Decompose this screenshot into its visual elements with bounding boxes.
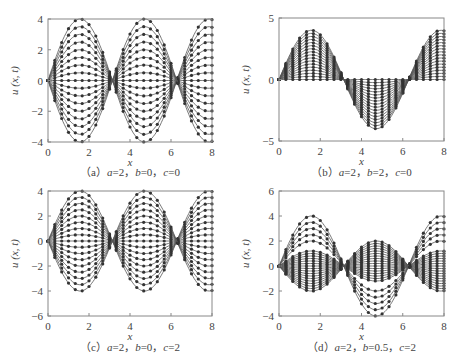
marker <box>436 228 439 231</box>
marker <box>360 246 363 249</box>
marker <box>305 289 308 292</box>
marker <box>353 277 356 280</box>
y-tick-label: −4 <box>262 310 274 322</box>
marker <box>381 300 384 303</box>
marker <box>312 233 315 236</box>
marker <box>291 237 294 240</box>
param-c-value: =2 <box>404 341 416 353</box>
marker <box>353 252 356 255</box>
x-tick-label: 8 <box>441 320 447 332</box>
x-tick-label: 6 <box>400 320 406 332</box>
marker <box>429 226 432 229</box>
marker <box>422 244 425 247</box>
marker <box>394 283 397 286</box>
marker <box>381 288 384 291</box>
marker <box>394 279 397 282</box>
marker <box>312 215 315 218</box>
marker <box>429 221 432 224</box>
marker <box>408 266 411 269</box>
marker <box>298 243 301 246</box>
marker <box>367 293 370 296</box>
y-axis-label: u (x, t) <box>239 239 252 268</box>
marker <box>422 248 425 251</box>
panel-d: 02468−4−20246xu (x, t) （d）a=2，b=0.5，c=2 <box>0 0 456 363</box>
marker <box>429 286 432 289</box>
caption-d: （d）a=2，b=0.5，c=2 <box>279 338 444 354</box>
marker <box>422 236 425 239</box>
marker <box>429 237 432 240</box>
plot-d: 02468−4−20246xu (x, t) <box>0 0 456 363</box>
marker <box>353 280 356 283</box>
marker <box>387 290 390 293</box>
marker <box>284 273 287 276</box>
marker <box>360 288 363 291</box>
marker <box>422 240 425 243</box>
marker <box>374 302 377 305</box>
marker <box>319 230 322 233</box>
y-tick-label: −2 <box>262 285 274 297</box>
marker <box>298 285 301 288</box>
marker <box>305 234 308 237</box>
marker <box>436 221 439 224</box>
marker <box>326 242 329 245</box>
marker <box>367 305 370 308</box>
series-group <box>277 215 445 318</box>
marker <box>436 240 439 243</box>
marker <box>367 299 370 302</box>
marker <box>374 296 377 299</box>
x-tick-label: 2 <box>318 320 324 332</box>
marker <box>305 228 308 231</box>
marker <box>422 232 425 235</box>
marker <box>291 234 294 237</box>
marker <box>436 215 439 218</box>
marker <box>394 286 397 289</box>
marker <box>339 268 342 271</box>
marker <box>298 233 301 236</box>
marker <box>387 244 390 247</box>
marker <box>387 300 390 303</box>
x-tick-label: 0 <box>276 320 282 332</box>
marker <box>346 260 349 263</box>
param-b-value: =0.5， <box>368 341 399 353</box>
marker <box>387 305 390 308</box>
marker <box>387 285 390 288</box>
marker <box>401 271 404 274</box>
marker <box>312 240 315 243</box>
marker <box>415 274 418 277</box>
marker <box>429 243 432 246</box>
marker <box>360 293 363 296</box>
marker <box>367 311 370 314</box>
marker <box>332 253 335 256</box>
marker <box>312 221 315 224</box>
marker <box>360 298 363 301</box>
marker <box>381 306 384 309</box>
marker <box>326 233 329 236</box>
marker <box>291 241 294 244</box>
marker <box>381 294 384 297</box>
y-tick-label: 0 <box>269 260 275 272</box>
marker <box>319 219 322 222</box>
marker <box>291 280 294 283</box>
marker <box>305 240 308 243</box>
param-a-value: =2， <box>340 341 363 353</box>
caption-tag: （d） <box>307 341 335 353</box>
marker <box>326 237 329 240</box>
marker <box>367 241 370 244</box>
y-tick-label: 2 <box>269 235 275 247</box>
marker <box>436 289 439 292</box>
marker <box>374 289 377 292</box>
marker <box>319 236 322 239</box>
marker <box>360 283 363 286</box>
marker <box>319 225 322 228</box>
marker <box>298 228 301 231</box>
marker <box>381 240 384 243</box>
marker <box>394 250 397 253</box>
marker <box>312 289 315 292</box>
marker <box>332 276 335 279</box>
marker <box>394 290 397 293</box>
marker <box>319 242 322 245</box>
marker <box>291 249 294 252</box>
marker <box>312 227 315 230</box>
marker <box>298 238 301 241</box>
marker <box>326 228 329 231</box>
